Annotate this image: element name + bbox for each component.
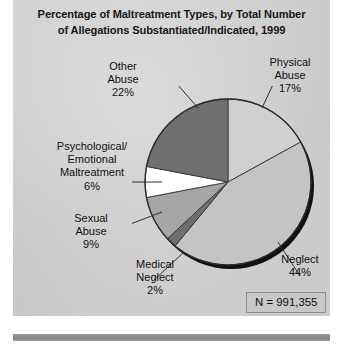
pie-label-other-abuse-line-2: Abuse	[86, 73, 160, 86]
pie-label-sexual-abuse-value: 9%	[59, 238, 123, 251]
leader-line-other-abuse	[171, 86, 198, 108]
chart-title-line-1: Percentage of Maltreatment Types, by Tot…	[21, 7, 322, 23]
pie-label-physical-abuse-line-2: Abuse	[254, 69, 326, 82]
pie-label-physical-abuse: Physical Abuse 17%	[254, 56, 326, 96]
pie-label-psychological-line-3: Maltreatment	[31, 166, 153, 179]
pie-label-neglect-value: 44%	[269, 266, 331, 279]
chart-panel: Percentage of Maltreatment Types, by Tot…	[13, 0, 330, 316]
pie-label-medical-neglect: Medical Neglect 2%	[118, 258, 192, 298]
chart-title-line-2: of Allegations Substantiated/Indicated, …	[21, 23, 322, 39]
pie-label-sexual-abuse: Sexual Abuse 9%	[59, 212, 123, 252]
pie-label-physical-abuse-value: 17%	[254, 82, 326, 95]
pie-label-other-abuse-line-1: Other	[86, 60, 160, 73]
pie-label-medical-neglect-line-1: Medical	[118, 258, 192, 271]
pie-label-neglect: Neglect 44%	[269, 253, 331, 279]
chart-title: Percentage of Maltreatment Types, by Tot…	[21, 7, 322, 38]
bottom-divider-rule	[13, 334, 330, 341]
pie-label-medical-neglect-line-2: Neglect	[118, 271, 192, 284]
pie-label-psychological-line-2: Emotional	[31, 153, 153, 166]
pie-chart	[132, 86, 322, 280]
pie-label-other-abuse-value: 22%	[86, 86, 160, 99]
pie-label-neglect-line-1: Neglect	[269, 253, 331, 266]
total-n-box: N = 991,355	[246, 292, 326, 313]
pie-label-sexual-abuse-line-2: Abuse	[59, 225, 123, 238]
pie-label-psychological-value: 6%	[31, 180, 153, 193]
pie-label-psychological-line-1: Psychological/	[31, 140, 153, 153]
pie-chart-svg	[132, 86, 322, 280]
pie-label-medical-neglect-value: 2%	[118, 284, 192, 297]
pie-label-physical-abuse-line-1: Physical	[254, 56, 326, 69]
pie-label-sexual-abuse-line-1: Sexual	[59, 212, 123, 225]
pie-label-other-abuse: Other Abuse 22%	[86, 60, 160, 100]
pie-slices	[145, 99, 311, 265]
pie-label-psychological-maltreatment: Psychological/ Emotional Maltreatment 6%	[31, 140, 153, 193]
